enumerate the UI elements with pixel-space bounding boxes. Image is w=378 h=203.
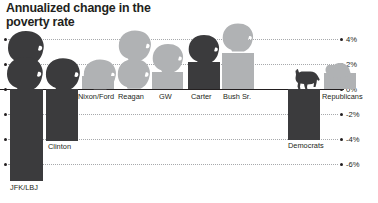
left-dot-minus-2 <box>4 113 7 116</box>
bar-label-carter: Carter <box>191 92 212 101</box>
silhouette-head-clinton <box>44 57 82 90</box>
silhouette-head-gw <box>151 42 185 73</box>
silhouette-head-reagan <box>116 57 152 90</box>
bar-jfk-lbj <box>10 89 43 181</box>
bar-label-reagan: Reagan <box>118 92 144 101</box>
legend-label-democrats: Democrats <box>288 141 324 150</box>
poverty-rate-chart: Annualized change in the poverty rate 4%… <box>0 0 378 203</box>
bar-democrats <box>288 89 320 140</box>
bar-label-nixon-ford: Nixon/Ford <box>78 92 114 101</box>
bar-label-clinton: Clinton <box>48 142 71 151</box>
bar-bush-sr <box>222 53 254 89</box>
gridline-minus-6 <box>8 164 338 165</box>
tick-label-4: 4% <box>338 35 376 44</box>
silhouette-head-reagan-upper <box>117 29 153 61</box>
left-dot-minus-6 <box>4 163 7 166</box>
bar-label-gw: GW <box>159 92 172 101</box>
legend-label-republicans: Republicans <box>322 92 363 101</box>
silhouette-head-carter <box>187 33 221 64</box>
bar-clinton <box>46 89 78 141</box>
tick-label-minus-6: -6% <box>338 160 376 169</box>
silhouette-head-lbj <box>5 56 45 90</box>
bar-carter <box>188 62 220 89</box>
tick-label-minus-2: -2% <box>338 110 376 119</box>
gridline-4 <box>8 39 338 40</box>
bar-label-bush-sr: Bush Sr. <box>223 92 251 101</box>
donkey-icon <box>291 68 320 94</box>
bar-nixon-ford <box>82 76 114 89</box>
plot-area: 4% 2% 0% -2% -4% -6% <box>0 0 378 203</box>
elephant-icon <box>325 62 355 92</box>
bar-gw <box>152 72 183 89</box>
bar-label-jfk-lbj: JFK/LBJ <box>10 183 38 192</box>
left-dot-minus-4 <box>4 138 7 141</box>
silhouette-head-bush-sr <box>221 20 255 54</box>
tick-label-minus-4: -4% <box>338 135 376 144</box>
